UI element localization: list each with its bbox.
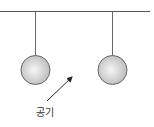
air-arrow <box>47 77 72 101</box>
left-ball <box>21 56 50 85</box>
pendulum-diagram <box>0 0 154 127</box>
air-label: 공기 <box>36 104 54 119</box>
right-ball <box>98 56 127 85</box>
